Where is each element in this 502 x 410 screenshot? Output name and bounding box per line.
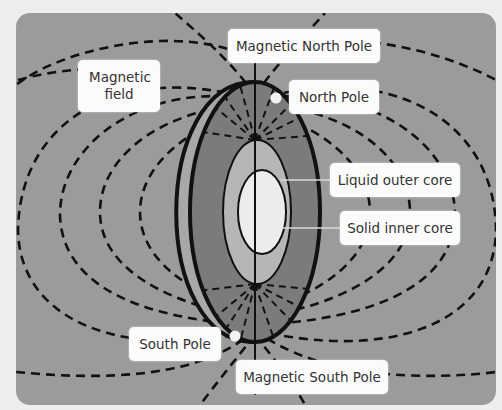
label-liquid-outer-core: Liquid outer core: [330, 163, 460, 197]
diagram-panel: Magnetic field Magnetic North Pole North…: [16, 13, 496, 405]
north-pole-text: North Pole: [299, 89, 369, 106]
magnetic-field-text: Magnetic field: [89, 69, 149, 103]
magnetic-south-pole-text: Magnetic South Pole: [243, 369, 381, 386]
label-north-pole: North Pole: [289, 80, 379, 114]
south-pole-text: South Pole: [139, 336, 211, 353]
solid-inner-core-text: Solid inner core: [347, 220, 452, 237]
label-magnetic-field: Magnetic field: [78, 60, 160, 112]
liquid-outer-core-text: Liquid outer core: [338, 172, 453, 189]
north-pole-dot: [271, 93, 282, 104]
label-magnetic-south-pole: Magnetic South Pole: [236, 360, 388, 394]
solid-inner-core-region: [238, 170, 286, 254]
label-magnetic-north-pole: Magnetic North Pole: [228, 29, 380, 63]
label-solid-inner-core: Solid inner core: [340, 211, 460, 245]
magnetic-north-pole-text: Magnetic North Pole: [236, 38, 372, 55]
label-south-pole: South Pole: [129, 327, 221, 361]
south-pole-dot: [230, 331, 241, 342]
